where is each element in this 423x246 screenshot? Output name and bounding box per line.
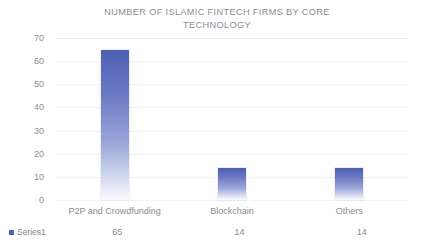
bar-chart: NUMBER OF ISLAMIC FINTECH FIRMS BY CORE … bbox=[0, 0, 423, 246]
data-table-row: Series1 65 14 14 bbox=[0, 223, 423, 241]
x-category-label: Blockchain bbox=[173, 203, 290, 219]
data-table-values: 65 14 14 bbox=[56, 227, 423, 237]
legend-swatch-icon bbox=[9, 230, 14, 235]
data-value-cell: 65 bbox=[56, 227, 178, 237]
x-category-label: P2P and Crowdfunding bbox=[56, 203, 173, 219]
y-tick-label: 40 bbox=[34, 102, 44, 112]
bar-blockchain[interactable] bbox=[218, 168, 246, 200]
y-tick-label: 0 bbox=[39, 195, 44, 205]
plot-area bbox=[56, 38, 408, 200]
bar-p2p-and-crowdfunding[interactable] bbox=[101, 50, 129, 200]
legend-label: Series1 bbox=[17, 227, 46, 237]
y-tick-label: 70 bbox=[34, 33, 44, 43]
bar-series bbox=[56, 38, 408, 200]
gridline-baseline bbox=[56, 200, 408, 201]
y-tick-label: 50 bbox=[34, 79, 44, 89]
bar-slot bbox=[173, 38, 290, 200]
legend-series1: Series1 bbox=[0, 227, 56, 237]
y-tick-label: 30 bbox=[34, 126, 44, 136]
bar-slot bbox=[56, 38, 173, 200]
y-tick-label: 20 bbox=[34, 149, 44, 159]
chart-title: NUMBER OF ISLAMIC FINTECH FIRMS BY CORE … bbox=[52, 6, 382, 31]
y-axis: 70 60 50 40 30 20 10 0 bbox=[0, 38, 50, 200]
y-tick-label: 60 bbox=[34, 56, 44, 66]
y-tick-label: 10 bbox=[34, 172, 44, 182]
bar-others[interactable] bbox=[335, 168, 363, 200]
x-category-label: Others bbox=[291, 203, 408, 219]
data-value-cell: 14 bbox=[178, 227, 300, 237]
data-value-cell: 14 bbox=[301, 227, 423, 237]
x-axis-category-labels: P2P and Crowdfunding Blockchain Others bbox=[56, 203, 408, 219]
bar-slot bbox=[291, 38, 408, 200]
